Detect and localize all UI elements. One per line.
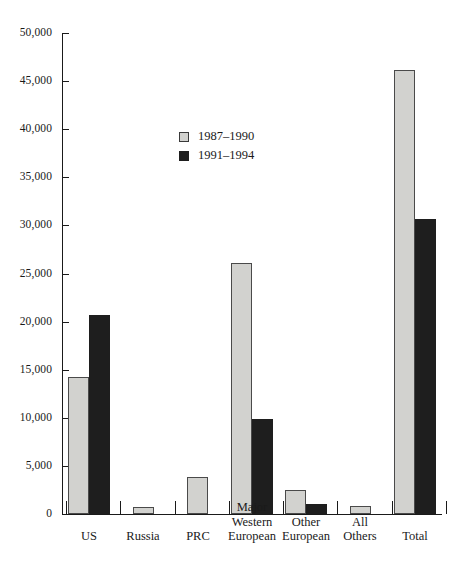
legend-item: 1987–1990: [179, 128, 254, 145]
y-axis-tick-label: 25,000: [0, 268, 52, 280]
legend-swatch-icon: [179, 132, 189, 142]
x-axis-category-label: All Others: [329, 515, 391, 544]
legend-item-label: 1987–1990: [198, 130, 254, 143]
legend-item-label: 1991–1994: [198, 149, 254, 162]
y-axis-tick-label: 5,000: [0, 460, 52, 472]
y-axis-tick-label: 20,000: [0, 316, 52, 328]
bar-group: [225, 33, 279, 514]
bar: [187, 477, 208, 514]
y-axis-tick-label: 50,000: [0, 27, 52, 39]
y-axis-tick-label: 15,000: [0, 364, 52, 376]
bar-group: [116, 33, 170, 514]
bar-group: [62, 33, 116, 514]
x-axis-category-label: Total: [384, 529, 446, 544]
bar-group: [333, 33, 387, 514]
bar: [350, 506, 371, 514]
y-axis-tick-label: 40,000: [0, 123, 52, 135]
y-axis-tick-label: 10,000: [0, 412, 52, 424]
bar-group: [388, 33, 442, 514]
x-axis-category-label: Major Western European: [221, 500, 283, 544]
bar-group: [171, 33, 225, 514]
bars-layer: [62, 33, 442, 514]
legend-swatch-icon: [179, 151, 189, 161]
bar: [89, 315, 110, 514]
bar: [306, 504, 327, 514]
bar: [285, 490, 306, 514]
x-axis-category-label: Other European: [275, 515, 337, 544]
legend-item: 1991–1994: [179, 147, 254, 164]
y-axis-tick-label: 45,000: [0, 75, 52, 87]
y-axis-tick: [62, 514, 69, 515]
bar: [68, 377, 89, 514]
y-axis-tick-label: 30,000: [0, 219, 52, 231]
bar: [231, 263, 252, 514]
x-axis-category-label: PRC: [167, 529, 229, 544]
chart-legend: 1987–1990 1991–1994: [179, 128, 254, 166]
bar: [415, 219, 436, 514]
y-axis-tick-label: 0: [0, 508, 52, 520]
bar-group: [279, 33, 333, 514]
bar-chart: 05,00010,00015,00020,00025,00030,00035,0…: [0, 0, 454, 585]
bar: [394, 70, 415, 514]
x-axis-tick: [446, 501, 447, 514]
x-axis-category-label: Russia: [112, 529, 174, 544]
x-axis-category-label: US: [58, 529, 120, 544]
bar: [133, 507, 154, 514]
y-axis-tick-label: 35,000: [0, 171, 52, 183]
